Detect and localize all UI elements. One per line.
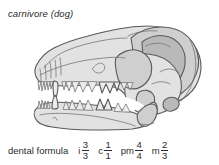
occipital-condyle — [163, 97, 179, 111]
molar-numerator: 2 — [161, 140, 168, 150]
premolar-numerator: 4 — [135, 140, 142, 150]
formula-term-molar: m 2 3 — [152, 140, 169, 161]
dog-skull-illustration — [0, 12, 219, 134]
premolar-denominator: 4 — [135, 151, 142, 161]
molar-symbol: m — [152, 145, 160, 156]
incisor-fraction: 3 3 — [82, 140, 89, 161]
incisor-symbol: i — [78, 145, 80, 156]
formula-term-incisor: i 3 3 — [78, 140, 89, 161]
upper-premolars — [62, 82, 97, 92]
formula-term-canine: c 1 1 — [98, 140, 112, 161]
molar-denominator: 3 — [161, 151, 168, 161]
dental-formula-terms: i 3 3 c 1 1 pm 4 — [78, 140, 177, 161]
premolar-fraction: 4 4 — [135, 140, 142, 161]
premolar-symbol: pm — [121, 145, 134, 156]
canine-fraction: 1 1 — [104, 140, 111, 161]
molar-fraction: 2 3 — [161, 140, 168, 161]
upper-carnassial — [99, 82, 120, 93]
formula-term-premolar: pm 4 4 — [121, 140, 143, 161]
skull-figure: carnivore (dog) — [0, 0, 219, 165]
canine-numerator: 1 — [104, 140, 111, 150]
canine-denominator: 1 — [104, 151, 111, 161]
canine-symbol: c — [98, 145, 103, 156]
dental-formula-row: dental formula i 3 3 c 1 1 pm — [0, 136, 219, 164]
dental-formula-label: dental formula — [8, 145, 68, 156]
incisor-denominator: 3 — [82, 151, 89, 161]
incisor-numerator: 3 — [82, 140, 89, 150]
upper-incisors — [38, 82, 53, 91]
